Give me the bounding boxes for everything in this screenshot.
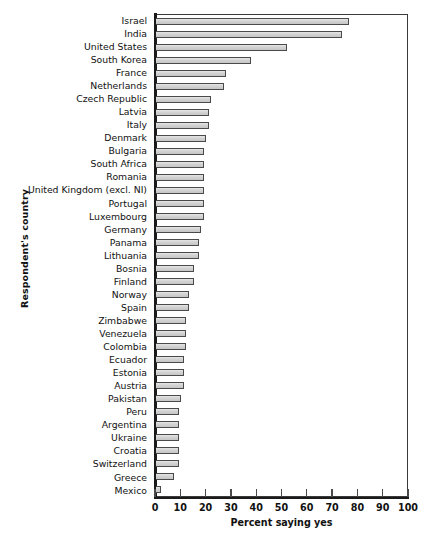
bar-row: [156, 158, 407, 171]
category-label: South Africa: [18, 158, 151, 171]
x-axis-tick-label: 30: [224, 502, 237, 513]
bar-row: [156, 249, 407, 262]
x-axis-tick: [256, 489, 257, 497]
x-axis-tick: [230, 489, 231, 497]
x-axis-tick: [281, 489, 282, 497]
bar-row: [156, 392, 407, 405]
bar-row: [156, 145, 407, 158]
figure-caption-fragment: [0, 538, 427, 545]
bar: [156, 382, 184, 389]
x-axis-tick-label: 0: [152, 502, 159, 513]
bar: [156, 31, 342, 38]
category-label: Switzerland: [18, 458, 151, 471]
category-label: Venezuela: [18, 327, 151, 340]
bar-row: [156, 106, 407, 119]
bar-row: [156, 15, 407, 28]
category-label: Luxembourg: [18, 210, 151, 223]
category-label: Croatia: [18, 445, 151, 458]
x-axis-tick-label: 70: [325, 502, 338, 513]
category-label: Mexico: [18, 484, 151, 497]
bar: [156, 265, 194, 272]
bar-row: [156, 275, 407, 288]
bar: [156, 343, 186, 350]
category-label: Portugal: [18, 197, 151, 210]
bar: [156, 70, 226, 77]
category-label: Peru: [18, 405, 151, 418]
category-label: Spain: [18, 301, 151, 314]
x-axis-tick-label: 90: [376, 502, 389, 513]
bar: [156, 239, 199, 246]
bar: [156, 57, 251, 64]
bar-row: [156, 28, 407, 41]
bar: [156, 369, 184, 376]
x-axis-tick-label: 80: [351, 502, 364, 513]
category-label: Germany: [18, 223, 151, 236]
x-axis-tick: [382, 489, 383, 497]
x-axis-tick-label: 60: [300, 502, 313, 513]
bar: [156, 252, 199, 259]
x-axis-tick: [357, 489, 358, 497]
category-label: France: [18, 66, 151, 79]
category-label: Latvia: [18, 105, 151, 118]
x-axis-tick: [331, 489, 332, 497]
bar: [156, 200, 204, 207]
plot-area: [155, 14, 408, 497]
bar: [156, 213, 204, 220]
category-label: Zimbabwe: [18, 314, 151, 327]
x-axis-tick-label: 50: [275, 502, 288, 513]
category-label: Czech Republic: [18, 92, 151, 105]
category-label: India: [18, 27, 151, 40]
bar-row: [156, 210, 407, 223]
bar: [156, 226, 201, 233]
bar-row: [156, 262, 407, 275]
bar: [156, 317, 186, 324]
x-axis-tick: [205, 489, 206, 497]
category-label: Ecuador: [18, 353, 151, 366]
bar-chart-figure: Respondent's country IsraelIndiaUnited S…: [0, 0, 427, 545]
x-axis-tick-label: 20: [199, 502, 212, 513]
bar: [156, 460, 179, 467]
x-axis-tick: [180, 489, 181, 497]
bar-row: [156, 379, 407, 392]
bar-row: [156, 236, 407, 249]
bar: [156, 148, 204, 155]
x-axis-tick-label: 10: [174, 502, 187, 513]
x-axis-tick: [407, 489, 408, 497]
bar-row: [156, 119, 407, 132]
bar: [156, 278, 194, 285]
bar: [156, 473, 174, 480]
bar: [156, 421, 179, 428]
bar-row: [156, 470, 407, 483]
bar-series: [156, 15, 407, 496]
bar-row: [156, 93, 407, 106]
bar: [156, 83, 224, 90]
x-axis-line: [154, 497, 409, 499]
category-label: Bulgaria: [18, 144, 151, 157]
x-axis-tick-label: 40: [250, 502, 263, 513]
bar-row: [156, 405, 407, 418]
bar: [156, 161, 204, 168]
category-label: Denmark: [18, 131, 151, 144]
category-label: Pakistan: [18, 392, 151, 405]
bar: [156, 291, 189, 298]
bar-row: [156, 340, 407, 353]
bar-row: [156, 80, 407, 93]
bar-row: [156, 54, 407, 67]
category-label: Israel: [18, 14, 151, 27]
category-label: Romania: [18, 171, 151, 184]
category-label: Colombia: [18, 340, 151, 353]
category-label: Argentina: [18, 418, 151, 431]
category-label: Ukraine: [18, 432, 151, 445]
category-label: Lithuania: [18, 249, 151, 262]
bar: [156, 44, 287, 51]
bar: [156, 434, 179, 441]
category-label: Netherlands: [18, 79, 151, 92]
bar: [156, 135, 206, 142]
x-axis-title: Percent saying yes: [155, 517, 408, 528]
category-label: Greece: [18, 471, 151, 484]
bar-row: [156, 184, 407, 197]
category-label-column: IsraelIndiaUnited StatesSouth KoreaFranc…: [18, 14, 151, 497]
bar-row: [156, 223, 407, 236]
bar: [156, 96, 211, 103]
bar: [156, 187, 204, 194]
